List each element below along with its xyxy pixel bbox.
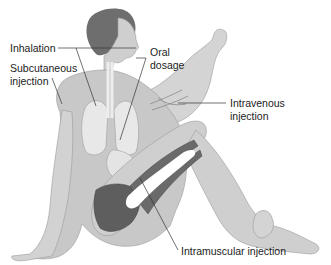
label-subcutaneous-2: injection: [10, 75, 49, 87]
label-inhalation: Inhalation: [10, 42, 56, 54]
drug-administration-figure: [0, 0, 331, 265]
label-oral-1: Oral: [150, 46, 170, 58]
label-intramuscular: Intramuscular injection: [181, 245, 286, 257]
label-intravenous-1: Intravenous: [230, 97, 285, 109]
label-subcutaneous-1: Subcutaneous: [10, 62, 77, 74]
label-oral-2: dosage: [150, 59, 184, 71]
label-intravenous-2: injection: [230, 110, 269, 122]
lower-leg: [184, 130, 319, 254]
